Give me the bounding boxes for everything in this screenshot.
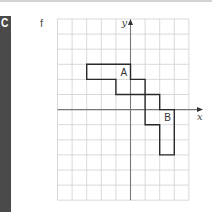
axes: x y — [58, 17, 204, 200]
y-axis-arrow-icon — [128, 19, 133, 25]
y-axis-label: y — [121, 17, 128, 28]
region-label-a: A — [120, 67, 127, 78]
region-label-b: B — [164, 112, 171, 123]
x-axis-label: x — [197, 111, 203, 122]
coordinate-grid-figure: x y A B — [0, 0, 212, 212]
